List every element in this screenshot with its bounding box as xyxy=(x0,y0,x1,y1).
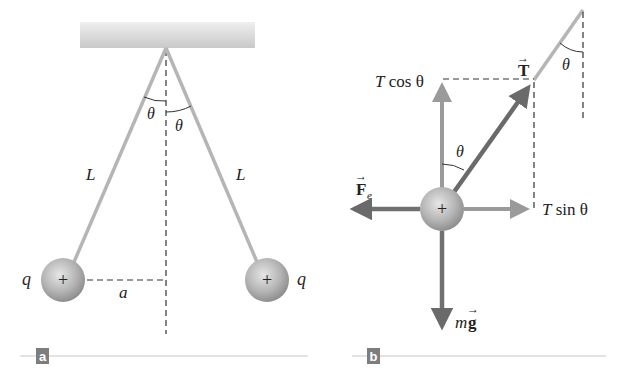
theta-top-label: θ xyxy=(562,56,570,73)
panel-badge-b-label: b xyxy=(370,349,378,364)
sphere-sign: + xyxy=(437,199,447,219)
length-left-label: L xyxy=(85,165,95,184)
string-segment xyxy=(534,10,583,80)
string-left xyxy=(74,48,166,262)
ceiling xyxy=(80,22,255,48)
panel-badge-a-label: a xyxy=(39,349,47,364)
tension-label: T xyxy=(518,61,530,80)
angle-arc-center xyxy=(442,164,464,170)
tension-arrow xyxy=(454,88,528,192)
tsin-label-rest: sin θ xyxy=(551,200,587,219)
charge-left-label: q xyxy=(22,269,31,289)
panel-b: θ θ + T cos θ → T T sin θ → F e m → xyxy=(352,10,606,364)
tcos-label-rest: cos θ xyxy=(384,72,423,91)
sphere-left-sign: + xyxy=(58,270,68,290)
separation-label: a xyxy=(119,283,128,302)
angle-arc-left xyxy=(144,97,166,101)
tsin-label: T sin θ xyxy=(542,200,588,219)
electric-force-subscript: e xyxy=(367,189,372,201)
weight-label-m: m xyxy=(455,313,467,332)
theta-right-label: θ xyxy=(175,117,183,134)
theta-left-label: θ xyxy=(147,105,155,122)
angle-arc-right xyxy=(166,106,191,112)
string-right xyxy=(166,48,257,262)
sphere-right-sign: + xyxy=(262,270,272,290)
theta-center-label: θ xyxy=(456,143,464,160)
electric-force-label: F xyxy=(356,180,366,199)
panel-a: θ θ L L a + + q q a xyxy=(20,22,308,364)
angle-arc-top xyxy=(560,43,583,52)
weight-label-g: g xyxy=(468,313,477,332)
length-right-label: L xyxy=(235,165,245,184)
tcos-label: T cos θ xyxy=(375,72,424,91)
charge-right-label: q xyxy=(297,269,306,289)
electrostatic-pendulum-figure: θ θ L L a + + q q a θ xyxy=(0,0,621,383)
